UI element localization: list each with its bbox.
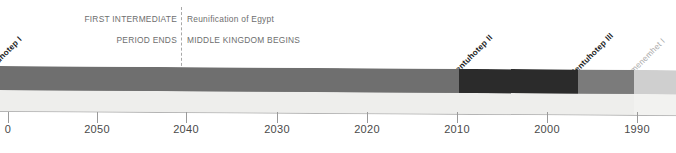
axis-tick-label-0: 0 [5,123,11,135]
segment-mentuhotep-iii-front [578,94,634,116]
segment-mentuhotep-ii-front [459,93,578,116]
axis-tick-label-1990: 1990 [624,123,650,135]
axis-tick-2050 [97,112,98,123]
axis-tick-label-2000: 2000 [534,123,560,135]
axis-tick-label-2010: 2010 [444,123,470,135]
segment-mentuhotep-iii-top [578,70,634,95]
axis-tick-2010 [457,112,458,123]
axis-tick-2040 [186,112,187,123]
axis-tick-label-2040: 2040 [173,123,199,135]
annotation-first-intermediate-period-ends: FIRST INTERMEDIATE PERIOD ENDS [60,3,177,56]
axis-tick-2030 [277,112,278,123]
annotation-right-line-2: MIDDLE KINGDOM BEGINS [187,35,367,46]
egypt-middle-kingdom-timeline: FIRST INTERMEDIATE PERIOD ENDS Reunifica… [0,0,676,153]
axis-tick-label-2020: 2020 [354,123,380,135]
annotation-left-line-2: PERIOD ENDS [60,35,177,46]
timeline-bar [0,66,676,114]
annotation-left-line-1: FIRST INTERMEDIATE [60,14,177,25]
timeline-bar-front-face [0,90,676,116]
axis-tick-label-2030: 2030 [264,123,290,135]
segment-amenemhet-i-top [634,70,676,95]
era-boundary-dashed-line [181,7,182,71]
segment-mentuhotep-ii-top [459,69,578,95]
annotation-right-line-1: Reunification of Egypt [187,14,367,25]
axis-tick-label-2050: 2050 [84,123,110,135]
annotation-middle-kingdom-begins: Reunification of Egypt MIDDLE KINGDOM BE… [187,3,367,56]
segment-amenemhet-i-front [634,94,676,116]
axis-tick-2000 [547,112,548,123]
axis-tick-2020 [367,112,368,123]
segment-pre-mentuhotep-ii-front [0,90,459,115]
axis-tick-0 [8,112,9,123]
axis-tick-1990 [637,112,638,123]
